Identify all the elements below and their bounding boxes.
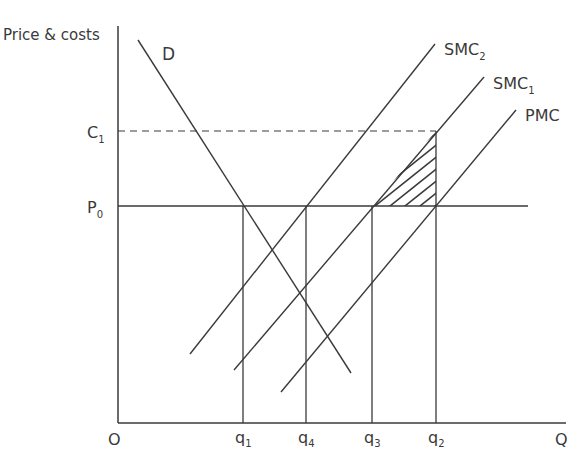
externality-diagram: Price & costs O Q C1 P0 q1 q4 q3 q2 D SM…: [0, 0, 577, 466]
deadweight-loss-hatch: [360, 66, 460, 278]
demand-label: D: [162, 44, 175, 64]
q3-label: q3: [364, 428, 381, 449]
q2-label: q2: [428, 428, 445, 449]
origin-label: O: [108, 430, 121, 449]
smc1-label: SMC1: [493, 74, 535, 96]
smc2-label: SMC2: [444, 40, 486, 62]
y-axis-label: Price & costs: [3, 26, 100, 44]
x-axis-label: Q: [555, 430, 568, 449]
c1-label: C1: [87, 123, 105, 145]
p0-label: P0: [87, 198, 103, 220]
pmc-label: PMC: [525, 106, 560, 125]
smc1-curve: [234, 77, 484, 370]
q1-label: q1: [235, 428, 252, 449]
q4-label: q4: [298, 428, 315, 449]
pmc-curve: [281, 110, 516, 392]
